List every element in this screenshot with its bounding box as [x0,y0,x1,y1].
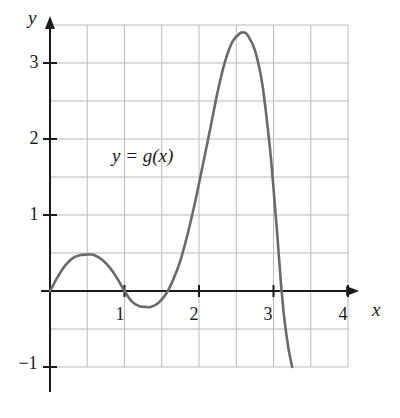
plot-canvas [0,0,400,418]
y-tick-label-3: 3 [26,53,42,71]
y-axis-label: y [28,8,36,27]
x-axis-label: x [372,300,380,319]
y-tick-label-1: 1 [26,205,42,223]
y-tick-label-minus-1: −1 [14,354,42,372]
x-tick-label-3: 3 [260,305,276,323]
x-tick-label-4: 4 [335,305,351,323]
graph-figure: y x 3 2 1 −1 1 2 3 4 y = g(x) [0,0,400,418]
x-tick-label-2: 2 [186,305,202,323]
function-curve [50,32,292,367]
x-tick-label-1: 1 [112,305,128,323]
y-tick-label-2: 2 [26,129,42,147]
curve-equation-label: y = g(x) [112,146,173,165]
axes [41,16,359,392]
